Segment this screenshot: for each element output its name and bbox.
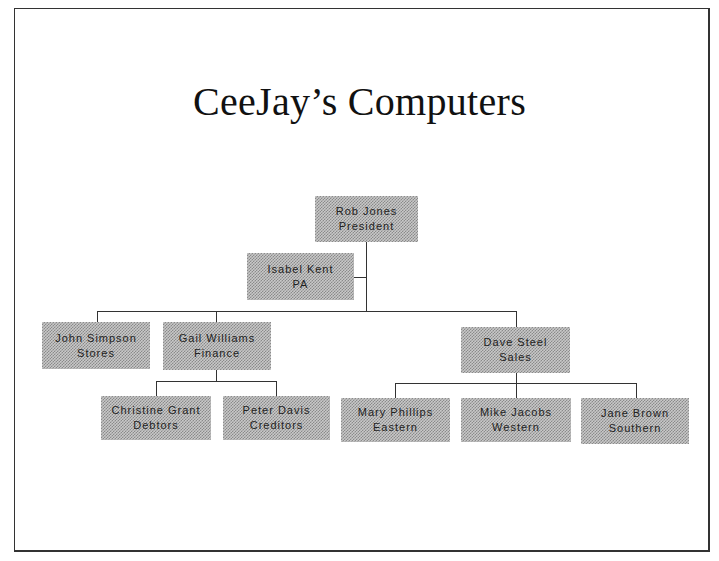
connector [395, 383, 396, 398]
node-name: Isabel Kent [267, 262, 333, 277]
node-president[interactable]: Rob Jones President [315, 196, 418, 242]
connector [156, 381, 276, 382]
node-name: Peter Davis [243, 403, 311, 418]
chart-title: CeeJay’s Computers [0, 78, 719, 125]
node-manager-finance[interactable]: Gail Williams Finance [163, 322, 271, 370]
node-name: Mike Jacobs [480, 405, 552, 420]
node-role: Stores [77, 346, 115, 361]
node-finance-debtors[interactable]: Christine Grant Debtors [101, 396, 211, 440]
node-role: Southern [609, 421, 662, 436]
node-role: Finance [194, 346, 240, 361]
connector [516, 311, 517, 327]
node-sales-eastern[interactable]: Mary Phillips Eastern [341, 398, 450, 442]
connector [97, 311, 98, 322]
node-role: Sales [499, 350, 532, 365]
node-assistant[interactable]: Isabel Kent PA [247, 253, 354, 300]
node-role: PA [293, 277, 309, 292]
node-role: Debtors [133, 418, 179, 433]
node-finance-creditors[interactable]: Peter Davis Creditors [223, 396, 330, 440]
node-role: Western [492, 420, 540, 435]
connector [276, 381, 277, 396]
node-name: Jane Brown [601, 406, 669, 421]
node-name: Gail Williams [179, 331, 256, 346]
node-manager-stores[interactable]: John Simpson Stores [42, 322, 150, 369]
connector [97, 311, 517, 312]
node-role: President [339, 219, 394, 234]
connector [516, 383, 517, 398]
connector [353, 277, 367, 278]
node-name: John Simpson [55, 331, 137, 346]
node-sales-western[interactable]: Mike Jacobs Western [461, 398, 571, 442]
node-sales-southern[interactable]: Jane Brown Southern [581, 398, 689, 444]
connector [156, 381, 157, 396]
node-role: Creditors [250, 418, 304, 433]
connector [516, 373, 517, 383]
node-role: Eastern [373, 420, 418, 435]
node-manager-sales[interactable]: Dave Steel Sales [461, 327, 570, 373]
node-name: Mary Phillips [358, 405, 433, 420]
node-name: Rob Jones [336, 204, 398, 219]
node-name: Christine Grant [112, 403, 201, 418]
connector [636, 383, 637, 398]
connector [216, 311, 217, 322]
node-name: Dave Steel [484, 335, 548, 350]
